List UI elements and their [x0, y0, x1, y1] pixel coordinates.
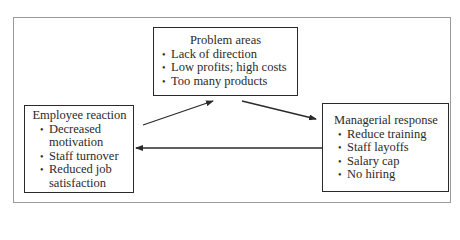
employee-reaction-title: Employee reaction [30, 109, 129, 123]
employee-reaction-list: Decreased motivation Staff turnover Redu… [40, 123, 129, 191]
list-item: Salary cap [338, 155, 444, 169]
list-item: Low profits; high costs [162, 61, 297, 75]
employee-reaction-box: Employee reaction Decreased motivation S… [24, 105, 134, 193]
problem-areas-list: Lack of direction Low profits; high cost… [162, 48, 297, 89]
list-item: Too many products [162, 75, 297, 89]
problem-areas-box: Problem areas Lack of direction Low prof… [153, 27, 298, 96]
problem-areas-title: Problem areas [154, 34, 297, 48]
list-item: No hiring [338, 168, 444, 182]
list-item: Reduced job satisfaction [40, 163, 129, 190]
arrow-employee-to-problem [143, 101, 213, 125]
arrow-problem-to-managerial [242, 101, 316, 119]
managerial-response-box: Managerial response Reduce training Staf… [322, 103, 449, 192]
managerial-response-list: Reduce training Staff layoffs Salary cap… [338, 128, 444, 182]
list-item: Reduce training [338, 128, 444, 142]
list-item: Lack of direction [162, 48, 297, 62]
list-item: Staff turnover [40, 150, 129, 164]
list-item: Staff layoffs [338, 141, 444, 155]
list-item: Decreased motivation [40, 123, 129, 150]
managerial-response-title: Managerial response [328, 114, 444, 128]
